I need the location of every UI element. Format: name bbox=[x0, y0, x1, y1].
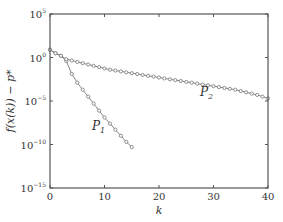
data-point bbox=[65, 58, 68, 61]
data-point bbox=[228, 87, 231, 90]
data-point bbox=[190, 81, 193, 84]
data-point bbox=[114, 128, 117, 131]
data-point bbox=[163, 77, 166, 80]
series-label-p1: P1 bbox=[91, 119, 105, 135]
data-point bbox=[217, 86, 220, 89]
data-point bbox=[114, 69, 117, 72]
data-point bbox=[147, 74, 150, 77]
data-point bbox=[92, 64, 95, 67]
data-point bbox=[76, 81, 79, 84]
y-tick-labels: 10510010−510−1010−15 bbox=[21, 7, 47, 194]
data-point bbox=[125, 140, 128, 143]
data-point bbox=[70, 72, 73, 75]
data-point bbox=[174, 79, 177, 82]
data-point bbox=[119, 134, 122, 137]
series-p1 bbox=[48, 48, 133, 149]
data-point bbox=[250, 92, 253, 95]
data-point bbox=[103, 67, 106, 70]
data-point bbox=[239, 89, 242, 92]
data-point bbox=[130, 146, 133, 149]
x-tick-label: 40 bbox=[262, 191, 275, 202]
data-point bbox=[256, 93, 259, 96]
data-point bbox=[223, 86, 226, 89]
data-point bbox=[261, 95, 264, 98]
data-point bbox=[81, 88, 84, 91]
data-point bbox=[152, 75, 155, 78]
data-point bbox=[141, 73, 144, 76]
data-point bbox=[108, 68, 111, 71]
data-point bbox=[136, 72, 139, 75]
data-point bbox=[157, 76, 160, 79]
y-tick-label: 10−5 bbox=[24, 94, 46, 107]
data-point bbox=[92, 102, 95, 105]
series-label-p2: P2 bbox=[199, 85, 213, 101]
data-point bbox=[87, 63, 90, 66]
x-tick-label: 30 bbox=[207, 191, 220, 202]
y-tick-label: 105 bbox=[29, 7, 46, 20]
data-point bbox=[245, 91, 248, 94]
axis-ticks bbox=[50, 14, 268, 188]
x-tick-label: 10 bbox=[98, 191, 111, 202]
data-point bbox=[76, 60, 79, 63]
data-point bbox=[168, 78, 171, 81]
data-point bbox=[234, 88, 237, 91]
series-p2 bbox=[48, 48, 269, 100]
data-point bbox=[185, 80, 188, 83]
data-point bbox=[130, 72, 133, 75]
x-axis-title: k bbox=[156, 204, 163, 217]
y-tick-label: 100 bbox=[29, 51, 46, 64]
data-point bbox=[59, 54, 62, 57]
data-point bbox=[119, 70, 122, 73]
plot-frame bbox=[50, 14, 268, 188]
x-tick-labels: 010203040 bbox=[47, 191, 275, 202]
convergence-chart: 10510010−510−1010−15 010203040 k f(x(k))… bbox=[0, 0, 283, 222]
data-point bbox=[108, 122, 111, 125]
plot-area bbox=[48, 48, 269, 149]
x-tick-label: 20 bbox=[153, 191, 166, 202]
series-line bbox=[50, 50, 132, 147]
data-point bbox=[125, 71, 128, 74]
y-tick-label: 10−15 bbox=[21, 181, 47, 194]
data-point bbox=[98, 66, 101, 69]
data-point bbox=[212, 85, 215, 88]
data-point bbox=[87, 95, 90, 98]
x-tick-label: 0 bbox=[47, 191, 53, 202]
data-point bbox=[54, 52, 57, 55]
y-axis-title: f(x(k)) − p* bbox=[4, 69, 17, 133]
data-point bbox=[103, 116, 106, 119]
y-tick-label: 10−10 bbox=[21, 138, 47, 151]
data-point bbox=[70, 59, 73, 62]
data-point bbox=[196, 82, 199, 85]
data-point bbox=[81, 62, 84, 65]
data-point bbox=[179, 79, 182, 82]
data-point bbox=[98, 109, 101, 112]
